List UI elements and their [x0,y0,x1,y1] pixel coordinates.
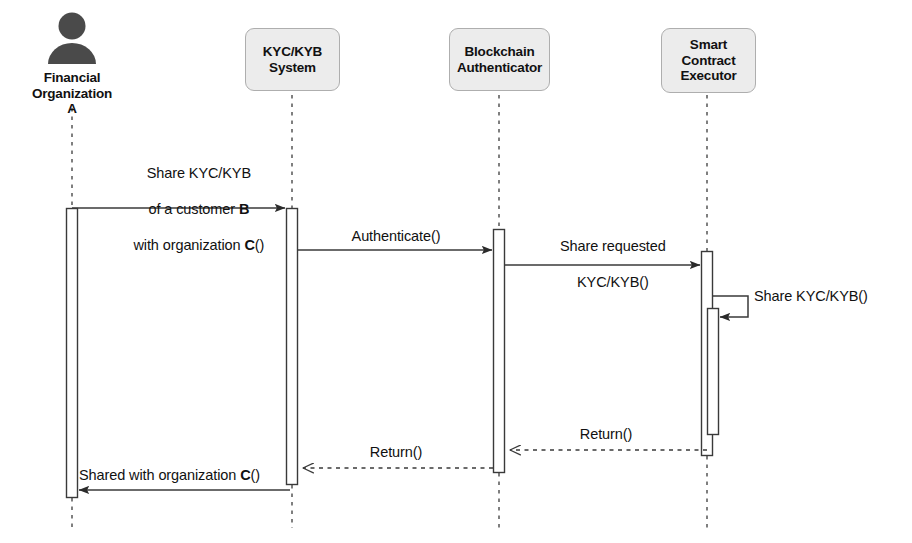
label-msg-share-kyc-kyb: Share KYC/KYB of a customer B with organ… [86,146,296,272]
activation-smart-contract-executor-nested [708,309,719,435]
sequence-diagram: KYC/KYB System Blockchain Authenticator … [0,0,912,543]
label-msg-authenticate: Authenticate() [303,227,489,245]
label-msg-share-kyc-kyb-line1: Share KYC/KYB [147,165,251,181]
label-msg-share-requested: Share requested KYC/KYB() [515,219,695,309]
label-msg-self-share: Share KYC/KYB() [754,287,912,305]
label-msg-shared-with-organization: Shared with organization C() [79,466,309,484]
label-msg-share-kyc-kyb-line3: with organization C() [133,237,264,253]
person-icon [48,13,96,65]
participant-kyc-kyb-system[interactable]: KYC/KYB System [245,28,340,91]
activation-blockchain-authenticator [494,230,505,473]
label-msg-share-kyc-kyb-line2: of a customer B [148,201,249,217]
participant-smart-contract-executor[interactable]: Smart Contract Executor [661,28,756,93]
activation-financial-organization-a [67,209,78,498]
participant-financial-organization-a-label: Financial Organization A [2,70,142,117]
label-msg-share-requested-line2: KYC/KYB() [577,274,649,290]
participant-blockchain-authenticator[interactable]: Blockchain Authenticator [449,28,550,91]
label-msg-return-ba-to-kyc: Return() [318,443,474,461]
label-msg-return-sce-to-ba: Return() [528,425,684,443]
label-msg-share-requested-line1: Share requested [560,238,666,254]
